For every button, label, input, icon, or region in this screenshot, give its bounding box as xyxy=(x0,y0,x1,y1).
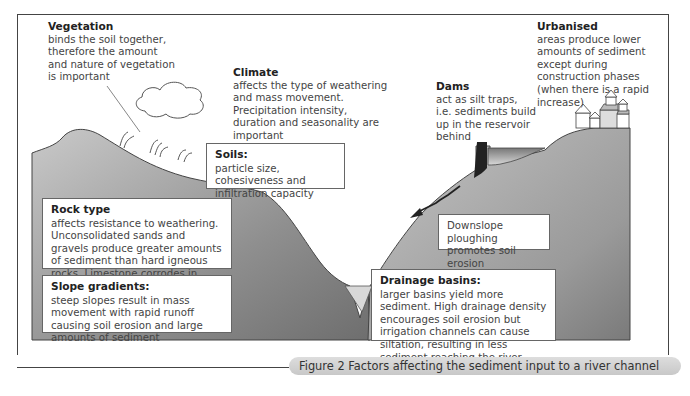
slope-gradients-body: steep slopes result in mass movement wit… xyxy=(51,295,203,344)
drainage-basins-box: Drainage basins: larger basins yield mor… xyxy=(371,269,556,341)
drainage-basins-body: larger basins yield more sediment. High … xyxy=(380,289,546,363)
slope-gradients-box: Slope gradients: steep slopes result in … xyxy=(42,275,232,333)
dams-body: act as silt traps, i.e. sediments build … xyxy=(436,94,536,143)
vegetation-body: binds the soil together, therefore the a… xyxy=(48,34,175,83)
urbanised-body: areas produce lower amounts of sediment … xyxy=(537,34,649,108)
cloud-icon xyxy=(136,82,203,118)
climate-label: Climate affects the type of weathering a… xyxy=(233,66,393,143)
vegetation-title: Vegetation xyxy=(48,20,178,33)
slope-gradients-title: Slope gradients: xyxy=(51,280,224,293)
rock-type-box: Rock type affects resistance to weatheri… xyxy=(42,198,232,269)
dams-label: Dams act as silt traps, i.e. sediments b… xyxy=(436,80,536,144)
soils-box: Soils: particle size, cohesiveness and i… xyxy=(206,143,345,189)
ploughing-box: Downslope ploughing promotes soil erosio… xyxy=(438,214,550,250)
urbanised-label: Urbanised areas produce lower amounts of… xyxy=(537,20,667,109)
rock-type-title: Rock type xyxy=(51,203,224,216)
climate-body: affects the type of weathering and mass … xyxy=(233,80,387,141)
climate-title: Climate xyxy=(233,66,393,79)
figure-caption: Figure 2 Factors affecting the sediment … xyxy=(289,357,681,375)
soils-body: particle size, cohesiveness and infiltra… xyxy=(215,163,314,199)
vegetation-pointer xyxy=(107,86,140,132)
soils-title: Soils: xyxy=(215,148,337,161)
dams-title: Dams xyxy=(436,80,536,93)
vegetation-label: Vegetation binds the soil together, ther… xyxy=(48,20,178,84)
urbanised-title: Urbanised xyxy=(537,20,667,33)
drainage-basins-title: Drainage basins: xyxy=(380,274,548,287)
